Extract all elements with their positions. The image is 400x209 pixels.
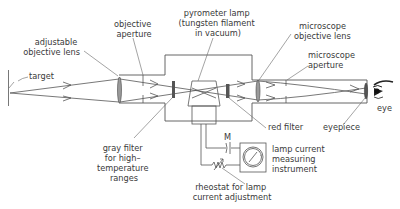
light-rays-outgoing <box>258 81 366 101</box>
adjustable-objective-lens <box>118 77 122 103</box>
label-red-filter: red filter <box>268 122 304 132</box>
eye-icon <box>373 81 393 99</box>
light-rays-incoming <box>10 79 119 102</box>
battery-icon: M <box>224 132 231 154</box>
label-pyrometer-lamp: pyrometer lamp (tungsten filament in vac… <box>179 8 258 38</box>
optical-pyrometer-diagram: M target <box>0 0 400 209</box>
lamp-current-measuring-instrument <box>240 143 266 172</box>
label-eye: eye <box>377 103 392 113</box>
red-filter <box>226 84 230 98</box>
arrow-icon <box>63 96 71 101</box>
labels: target adjustable objective lens objecti… <box>23 8 392 202</box>
gray-filter <box>172 81 175 98</box>
label-lamp-current-instrument: lamp current measuring instrument <box>272 144 327 174</box>
label-gray-filter: gray filter for high– temperature ranges <box>97 143 151 183</box>
svg-text:M: M <box>224 132 231 142</box>
label-microscope-aperture: microscope aperture <box>308 50 358 70</box>
microscope-objective-lens <box>256 80 260 102</box>
label-rheostat: rheostat for lamp current adjustment <box>193 182 272 202</box>
arrow-icon <box>350 85 359 92</box>
arrow-icon <box>266 82 275 88</box>
label-adjustable-objective-lens: adjustable objective lens <box>23 37 80 57</box>
label-objective-aperture: objective aperture <box>114 19 154 39</box>
eyepiece <box>364 83 367 99</box>
arrow-icon <box>266 95 275 101</box>
label-target: target <box>29 71 55 81</box>
label-microscope-objective-lens: microscope objective lens <box>294 21 351 41</box>
label-eyepiece: eyepiece <box>323 122 360 132</box>
rheostat <box>212 159 226 170</box>
